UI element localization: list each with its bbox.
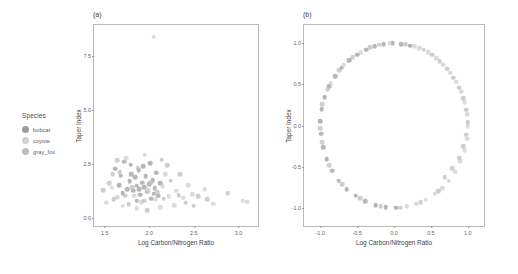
legend-item-gray-fox: gray_fox	[22, 146, 88, 157]
panel-a-points	[94, 25, 258, 226]
data-point	[358, 196, 363, 201]
y-tick-label: 7.5	[84, 53, 95, 59]
data-point	[454, 80, 459, 85]
y-tick-label: 2.5	[84, 161, 95, 167]
x-tick-label: 0.0	[390, 226, 398, 236]
data-point	[120, 204, 125, 209]
data-point	[327, 163, 332, 168]
data-point	[192, 204, 197, 209]
data-point	[163, 172, 168, 177]
data-point	[363, 199, 368, 204]
data-point	[110, 172, 115, 177]
data-point	[328, 81, 333, 86]
data-point	[320, 140, 325, 145]
data-point	[450, 166, 455, 171]
data-point	[127, 179, 132, 184]
data-point	[384, 205, 389, 210]
data-point	[459, 89, 464, 94]
data-point	[154, 170, 159, 175]
data-point	[430, 52, 435, 57]
data-point	[167, 194, 172, 199]
data-point	[149, 180, 154, 185]
y-tick-label: -1.0	[292, 205, 304, 211]
data-point	[321, 145, 326, 150]
panel-b-plot-area: -1.0-0.50.00.51.0 -1.0-0.50.00.51.0 Log …	[303, 24, 485, 227]
data-point	[118, 170, 123, 175]
data-point	[211, 201, 216, 206]
data-point	[377, 42, 382, 47]
data-point	[134, 206, 139, 211]
data-point	[155, 190, 160, 195]
data-point	[464, 108, 469, 113]
data-point	[318, 126, 323, 131]
data-point	[465, 120, 470, 125]
data-point	[117, 183, 122, 188]
data-point	[325, 87, 330, 92]
data-point	[184, 201, 189, 206]
data-point	[124, 156, 129, 161]
data-point	[398, 206, 403, 211]
data-point	[436, 189, 441, 194]
data-point	[318, 119, 323, 124]
data-point	[465, 112, 470, 117]
data-point	[115, 158, 120, 163]
data-point	[125, 187, 130, 192]
data-point	[319, 107, 324, 112]
data-point	[373, 203, 378, 208]
data-point	[350, 55, 355, 60]
data-point	[205, 197, 210, 202]
y-tick-label: 1.0	[294, 40, 305, 46]
data-point	[133, 175, 138, 180]
panel-a-tag: (a)	[93, 11, 102, 18]
panel-a: (a) 0.02.55.07.5 1.52.02.53.0 Log Carbon…	[85, 0, 265, 274]
data-point	[158, 205, 163, 210]
data-point	[148, 161, 153, 166]
panel-b-tag: (b)	[303, 11, 312, 18]
legend-item-label: bobcat	[33, 127, 50, 133]
data-point	[443, 175, 448, 180]
data-point	[151, 35, 156, 40]
data-point	[340, 182, 345, 187]
data-point	[104, 201, 109, 206]
data-point	[445, 66, 450, 71]
data-point	[107, 181, 112, 186]
data-point	[142, 198, 147, 203]
data-point	[464, 132, 469, 137]
data-point	[132, 193, 137, 198]
data-point	[126, 202, 131, 207]
data-point	[110, 185, 115, 190]
data-point	[457, 85, 462, 90]
data-point	[330, 169, 335, 174]
data-point	[135, 165, 140, 170]
data-point	[418, 200, 423, 205]
y-tick-label: 0.0	[84, 215, 95, 221]
data-point	[168, 178, 173, 183]
data-point	[451, 75, 456, 80]
x-tick-label: -0.5	[352, 226, 361, 236]
data-point	[359, 50, 364, 55]
data-point	[437, 59, 442, 64]
panel-b-x-title: Log Carbon/Nitrogen Ratio	[304, 239, 484, 246]
data-point	[225, 191, 230, 196]
x-tick-label: 2.0	[146, 226, 154, 236]
data-point	[181, 196, 186, 201]
data-point	[128, 163, 133, 168]
data-point	[101, 188, 106, 193]
data-point	[448, 70, 453, 75]
data-point	[320, 102, 325, 107]
data-point	[337, 68, 342, 73]
panel-b-points	[304, 25, 484, 226]
panel-a-y-title: Taper Index	[75, 109, 82, 142]
data-point	[111, 197, 116, 202]
data-point	[465, 124, 470, 129]
y-tick-label: -0.5	[292, 164, 304, 170]
x-tick-label: 0.5	[427, 226, 435, 236]
data-point	[145, 208, 150, 213]
y-tick-label: 0.5	[294, 81, 305, 87]
legend-item-label: coyote	[33, 138, 50, 144]
data-point	[202, 187, 207, 192]
data-point	[165, 163, 170, 168]
data-point	[368, 45, 373, 50]
data-point	[378, 204, 383, 209]
data-point	[333, 74, 338, 79]
